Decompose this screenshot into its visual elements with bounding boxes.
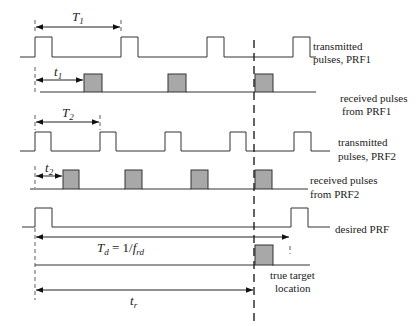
- target-label-2: location: [275, 282, 311, 294]
- tx-prf2-label-1: transmitted: [338, 136, 388, 148]
- rx-prf2-pulse: [125, 170, 142, 189]
- rx-prf1-label-1: received pulses: [340, 92, 408, 104]
- t1-label: t1: [54, 64, 62, 81]
- waveform-tx-prf2: [20, 132, 330, 151]
- rx-prf2-pulse: [191, 170, 208, 189]
- tr-label: tr: [130, 293, 138, 310]
- T1-label: T1: [72, 9, 84, 26]
- target-label-1: true target: [270, 269, 315, 281]
- rx-prf2-label-1: received pulses: [310, 174, 378, 186]
- tx-prf2-label-2: pulses, PRF2: [338, 150, 396, 162]
- desired-prf-label: desired PRF: [335, 223, 389, 235]
- t2-label: t2: [45, 160, 54, 177]
- rx-prf2-label-2: from PRF2: [310, 188, 359, 200]
- waveform-tx-prf1: [20, 37, 316, 57]
- tx-prf1-label-2: pulses, PRF1: [313, 53, 371, 65]
- rx-prf1-pulse: [255, 74, 273, 92]
- rx-prf1-pulse: [168, 74, 186, 92]
- Td-label: Td = 1/frd: [97, 240, 144, 257]
- waveform-desired-prf: [22, 208, 330, 227]
- rx-prf2-pulse: [255, 170, 272, 189]
- rx-prf1-pulse: [84, 74, 102, 92]
- rx-prf2-pulse: [63, 170, 79, 189]
- rx-prf1-label-2: from PRF1: [342, 105, 391, 117]
- tx-prf1-label-1: transmitted: [313, 40, 363, 52]
- T2-label: T2: [62, 105, 74, 122]
- true-target-pulse: [255, 245, 273, 265]
- prf-timing-diagram: T1 transmitted pulses, PRF1 t1 received …: [0, 0, 419, 326]
